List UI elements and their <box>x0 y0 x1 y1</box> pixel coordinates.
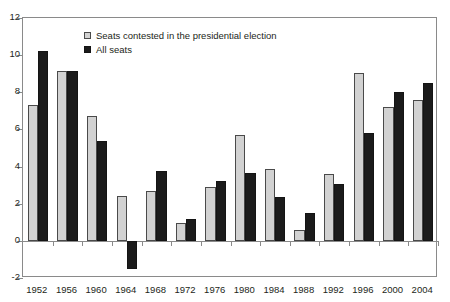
bar <box>324 174 334 241</box>
x-tick-mark <box>438 241 439 246</box>
x-tick-mark <box>260 241 261 246</box>
bar <box>275 197 285 241</box>
bar <box>235 135 245 241</box>
x-tick-mark <box>201 241 202 246</box>
bar <box>146 191 156 241</box>
x-tick-label: 1976 <box>200 284 230 295</box>
bar <box>294 230 304 241</box>
x-tick-label: 1996 <box>348 284 378 295</box>
y-tick-label: 6 <box>15 123 20 133</box>
light-square-swatch-icon <box>84 32 91 39</box>
bar <box>216 181 226 240</box>
bar <box>265 169 275 241</box>
y-tick-label: 0 <box>15 235 20 245</box>
x-tick-mark <box>290 241 291 246</box>
bar <box>87 116 97 240</box>
x-tick-mark <box>53 241 54 246</box>
x-tick-mark <box>171 241 172 246</box>
y-tick-label: -2 <box>12 272 20 282</box>
bar <box>364 133 374 241</box>
y-tick-label: 8 <box>15 86 20 96</box>
bar <box>205 187 215 241</box>
x-tick-label: 1984 <box>259 284 289 295</box>
bar <box>354 73 364 241</box>
x-tick-mark <box>319 241 320 246</box>
y-tick-label: 10 <box>9 49 20 59</box>
chart-legend: Seats contested in the presidential elec… <box>84 29 277 57</box>
y-tick-label: 2 <box>15 198 20 208</box>
bar <box>383 107 393 241</box>
x-tick-label: 1956 <box>52 284 82 295</box>
bar <box>305 213 315 241</box>
y-tick-label: 4 <box>15 161 20 171</box>
x-tick-label: 1952 <box>22 284 52 295</box>
x-tick-mark <box>112 241 113 246</box>
bar <box>38 51 48 240</box>
x-tick-label: 1964 <box>111 284 141 295</box>
legend-item-all-seats: All seats <box>84 43 277 55</box>
x-tick-mark <box>142 241 143 246</box>
clipped-caption-sliver <box>40 0 290 6</box>
bar <box>245 173 255 241</box>
bar <box>156 171 166 241</box>
legend-item-contested: Seats contested in the presidential elec… <box>84 29 277 41</box>
chart-figure: 121086420-2 1952195619601964196819721976… <box>0 0 450 302</box>
x-tick-mark <box>231 241 232 246</box>
bar <box>97 141 107 241</box>
bar <box>28 105 38 241</box>
x-tick-label: 1980 <box>230 284 260 295</box>
x-tick-label: 2000 <box>378 284 408 295</box>
x-tick-mark <box>379 241 380 246</box>
bar <box>57 71 67 241</box>
bar <box>117 196 127 241</box>
x-tick-mark <box>82 241 83 246</box>
bar <box>176 223 186 241</box>
x-tick-label: 1968 <box>141 284 171 295</box>
bar <box>186 219 196 241</box>
bar <box>394 92 404 241</box>
legend-label-contested: Seats contested in the presidential elec… <box>96 30 277 41</box>
x-tick-label: 2004 <box>407 284 437 295</box>
dark-square-swatch-icon <box>84 46 91 53</box>
bar <box>127 241 137 269</box>
bar <box>413 100 423 241</box>
x-tick-mark <box>408 241 409 246</box>
x-tick-mark <box>349 241 350 246</box>
bar <box>334 184 344 241</box>
bar <box>423 83 433 241</box>
y-tick-label: 12 <box>9 12 20 22</box>
x-tick-label: 1988 <box>289 284 319 295</box>
bar <box>67 71 77 241</box>
x-tick-label: 1972 <box>170 284 200 295</box>
x-tick-label: 1960 <box>81 284 111 295</box>
legend-label-all-seats: All seats <box>96 44 132 55</box>
x-tick-label: 1992 <box>318 284 348 295</box>
